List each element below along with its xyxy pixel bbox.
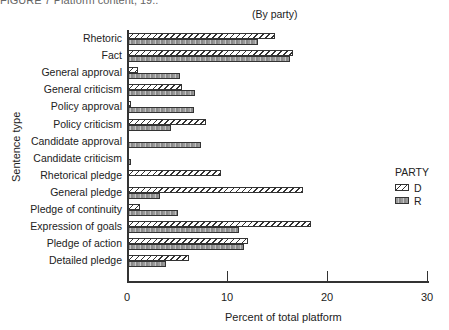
hatched-swatch-icon bbox=[395, 184, 409, 191]
legend-item-d: D bbox=[395, 181, 429, 194]
legend-item-r: R bbox=[395, 194, 429, 207]
chart-subtitle: (By party) bbox=[252, 8, 298, 20]
bar-r bbox=[127, 244, 244, 250]
legend-label-d: D bbox=[414, 182, 422, 194]
x-tick-label: 20 bbox=[321, 291, 333, 303]
category-label: Fact bbox=[102, 49, 122, 61]
bar-r bbox=[127, 125, 171, 131]
bar-r bbox=[127, 210, 178, 216]
x-tick bbox=[227, 271, 228, 281]
x-axis bbox=[127, 281, 429, 283]
category-label: Candidate approval bbox=[31, 135, 122, 147]
category-label: Rhetorical pledge bbox=[40, 169, 122, 181]
category-label: Candidate criticism bbox=[33, 152, 122, 164]
x-tick-label: 30 bbox=[421, 291, 433, 303]
bar-r bbox=[127, 56, 290, 62]
x-tick-label: 10 bbox=[221, 291, 233, 303]
x-tick-label: 0 bbox=[124, 291, 130, 303]
category-label: Expression of goals bbox=[30, 220, 122, 232]
category-label: Pledge of continuity bbox=[30, 203, 122, 215]
figure-caption-cut: FIGURE 7 Platform content, 19.. bbox=[0, 0, 158, 6]
bar-r bbox=[127, 90, 195, 96]
category-label: Detailed pledge bbox=[49, 254, 122, 266]
category-label: Policy criticism bbox=[53, 118, 122, 130]
stippled-swatch-icon bbox=[395, 197, 409, 204]
category-label: General pledge bbox=[50, 186, 122, 198]
bar-r bbox=[127, 142, 201, 148]
x-axis-label: Percent of total platform bbox=[225, 311, 342, 323]
legend: PARTY D R bbox=[395, 166, 429, 207]
bar-r bbox=[127, 261, 166, 267]
x-tick bbox=[427, 271, 428, 281]
y-axis-label: Sentence type bbox=[10, 122, 22, 182]
bar-d bbox=[127, 170, 221, 176]
y-axis bbox=[127, 30, 129, 282]
category-label: Policy approval bbox=[51, 100, 122, 112]
legend-label-r: R bbox=[414, 195, 422, 207]
bar-r bbox=[127, 227, 239, 233]
bar-r bbox=[127, 39, 258, 45]
category-label: General criticism bbox=[44, 83, 122, 95]
category-label: Rhetoric bbox=[83, 32, 122, 44]
category-label: Pledge of action bbox=[47, 237, 122, 249]
legend-title: PARTY bbox=[395, 166, 429, 178]
x-tick bbox=[327, 271, 328, 281]
bar-r bbox=[127, 107, 194, 113]
bar-r bbox=[127, 193, 160, 199]
bar-r bbox=[127, 73, 180, 79]
category-label: General approval bbox=[41, 66, 122, 78]
